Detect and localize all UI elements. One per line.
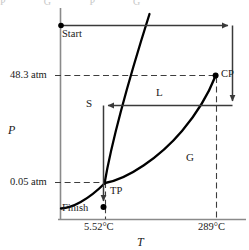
point-label-critical-point: CP bbox=[221, 69, 234, 80]
y-tick-label-0-05-atm: 0.05 atm bbox=[10, 177, 47, 188]
phase-diagram-canvas bbox=[0, 0, 249, 250]
axis-lines bbox=[58, 8, 246, 220]
x-tick-label-289-C: 289°C bbox=[198, 222, 225, 233]
y-axis-label: P bbox=[8, 124, 15, 136]
x-tick-label-5-52-C: 5.52°C bbox=[84, 222, 114, 233]
phase-diagram-figure: P G P G bbox=[0, 0, 249, 250]
critical-point-dot bbox=[213, 73, 219, 79]
region-label-gas: G bbox=[186, 152, 194, 163]
region-label-liquid: L bbox=[156, 87, 163, 98]
region-label-solid: S bbox=[86, 98, 92, 109]
fusion-curve bbox=[105, 14, 150, 184]
phase-boundary-curves bbox=[61, 14, 216, 209]
point-label-triple-point: TP bbox=[110, 186, 122, 197]
point-label-start: Start bbox=[62, 29, 82, 40]
y-tick-label-48-3-atm: 48.3 atm bbox=[10, 70, 47, 81]
process-path bbox=[61, 26, 233, 202]
point-label-finish: Finish bbox=[62, 203, 88, 214]
guide-lines bbox=[55, 76, 217, 220]
finish-dot bbox=[101, 204, 107, 210]
x-axis-label: T bbox=[137, 236, 144, 248]
